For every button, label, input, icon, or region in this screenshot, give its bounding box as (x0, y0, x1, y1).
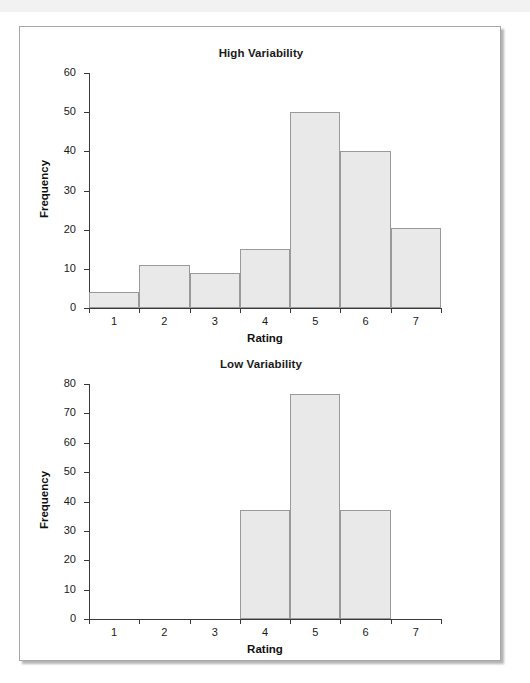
y-axis-tick: 50 (84, 472, 89, 473)
x-axis-tick-label: 4 (262, 315, 268, 327)
y-axis-tick: 30 (84, 191, 89, 192)
y-axis-tick-label: 20 (64, 553, 76, 565)
histogram-bar (240, 510, 290, 619)
chart-low-variability: Low Variability 010203040506070801234567… (20, 352, 502, 662)
y-axis-tick: 10 (84, 269, 89, 270)
y-axis-tick: 10 (84, 590, 89, 591)
y-axis-tick-label: 40 (64, 495, 76, 507)
x-axis-tick (190, 308, 191, 313)
y-axis-tick-label: 50 (64, 105, 76, 117)
y-axis-label: Frequency (37, 71, 49, 306)
y-axis-tick: 60 (84, 443, 89, 444)
x-axis-tick-label: 4 (262, 626, 268, 638)
y-axis-tick-label: 60 (64, 436, 76, 448)
x-axis-tick (190, 619, 191, 624)
y-axis-line (89, 384, 90, 619)
y-axis-line (89, 73, 90, 308)
y-axis-label: Frequency (37, 382, 49, 617)
x-axis-tick-label: 2 (161, 315, 167, 327)
x-axis-tick (391, 308, 392, 313)
y-axis-tick: 70 (84, 413, 89, 414)
y-axis-tick: 20 (84, 560, 89, 561)
y-axis-tick-label: 10 (64, 583, 76, 595)
x-axis-line (89, 619, 442, 620)
y-axis-tick: 80 (84, 384, 89, 385)
x-axis-tick (290, 308, 291, 313)
histogram-bar (340, 151, 390, 308)
x-axis-tick-label: 5 (312, 315, 318, 327)
x-axis-tick-label: 5 (312, 626, 318, 638)
y-axis-tick: 40 (84, 151, 89, 152)
x-axis-tick (441, 619, 442, 624)
histogram-bar (290, 112, 340, 308)
x-axis-tick-label: 7 (413, 315, 419, 327)
x-axis-tick (240, 619, 241, 624)
y-axis-tick-label: 20 (64, 223, 76, 235)
x-axis-line (89, 308, 442, 309)
chart-high-variability: High Variability 01020304050601234567 Fr… (20, 41, 502, 351)
x-axis-tick (340, 308, 341, 313)
y-axis-tick: 20 (84, 230, 89, 231)
x-axis-tick-label: 7 (413, 626, 419, 638)
running-head-strip (0, 0, 530, 12)
x-axis-tick (340, 619, 341, 624)
y-axis-tick: 60 (84, 73, 89, 74)
histogram-bar (340, 510, 390, 619)
y-axis-tick-label: 0 (70, 612, 76, 624)
y-axis-tick-label: 80 (64, 377, 76, 389)
x-axis-tick-label: 1 (111, 626, 117, 638)
histogram-bar (290, 394, 340, 619)
x-axis-tick (290, 619, 291, 624)
x-axis-tick (139, 308, 140, 313)
x-axis-tick (240, 308, 241, 313)
y-axis-tick-label: 70 (64, 406, 76, 418)
y-axis-tick-label: 60 (64, 66, 76, 78)
x-axis-tick-label: 2 (161, 626, 167, 638)
histogram-bar (391, 228, 441, 308)
y-axis-tick-label: 0 (70, 301, 76, 313)
histogram-bar (139, 265, 189, 308)
y-axis-tick-label: 40 (64, 144, 76, 156)
histogram-bar (190, 273, 240, 308)
y-axis-tick-label: 30 (64, 184, 76, 196)
y-axis-tick-label: 30 (64, 524, 76, 536)
plot-area: 010203040506070801234567 (89, 384, 441, 619)
x-axis-tick (139, 619, 140, 624)
x-axis-tick (89, 619, 90, 624)
x-axis-tick (89, 308, 90, 313)
y-axis-tick-label: 10 (64, 262, 76, 274)
chart-title: Low Variability (20, 358, 502, 370)
x-axis-tick-label: 3 (212, 626, 218, 638)
x-axis-tick (391, 619, 392, 624)
x-axis-tick-label: 6 (363, 626, 369, 638)
figure-card: High Variability 01020304050601234567 Fr… (19, 26, 501, 661)
histogram-bar (240, 249, 290, 308)
y-axis-tick: 40 (84, 502, 89, 503)
histogram-bar (89, 292, 139, 308)
y-axis-tick: 30 (84, 531, 89, 532)
x-axis-tick-label: 3 (212, 315, 218, 327)
chart-title: High Variability (20, 47, 502, 59)
figure-page: High Variability 01020304050601234567 Fr… (0, 0, 530, 683)
x-axis-tick-label: 1 (111, 315, 117, 327)
y-axis-tick-label: 50 (64, 465, 76, 477)
plot-area: 01020304050601234567 (89, 73, 441, 308)
x-axis-tick (441, 308, 442, 313)
x-axis-tick-label: 6 (363, 315, 369, 327)
x-axis-label: Rating (89, 332, 441, 344)
y-axis-tick: 50 (84, 112, 89, 113)
x-axis-label: Rating (89, 643, 441, 655)
